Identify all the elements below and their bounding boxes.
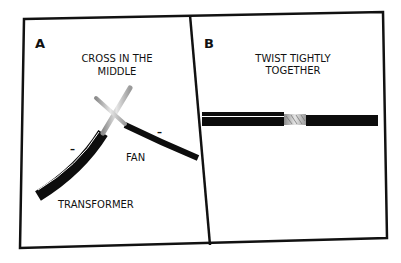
twisted-bare-wire <box>284 114 306 125</box>
wire-splice-diagram: A CROSS IN THE MIDDLE – – FAN TRANSFORME… <box>0 0 401 263</box>
panel-b-letter: B <box>204 36 214 51</box>
panel-a: A CROSS IN THE MIDDLE – – FAN TRANSFORME… <box>35 36 198 210</box>
fan-label: FAN <box>126 152 145 163</box>
panel-b-caption-line1: TWIST TIGHTLY <box>254 53 331 64</box>
polarity-mark-transformer: – <box>70 144 75 155</box>
twisted-splice <box>202 112 378 126</box>
panel-b-caption-line2: TOGETHER <box>265 65 321 76</box>
transformer-wire <box>38 88 130 196</box>
panel-a-caption-line1: CROSS IN THE <box>81 53 152 64</box>
polarity-mark-fan: – <box>157 127 162 138</box>
panel-b: B TWIST TIGHTLY TOGETHER <box>202 36 378 126</box>
transformer-label: TRANSFORMER <box>57 199 134 210</box>
panel-a-letter: A <box>35 36 45 51</box>
panel-a-caption-line2: MIDDLE <box>98 66 137 77</box>
fan-wire <box>96 98 198 158</box>
